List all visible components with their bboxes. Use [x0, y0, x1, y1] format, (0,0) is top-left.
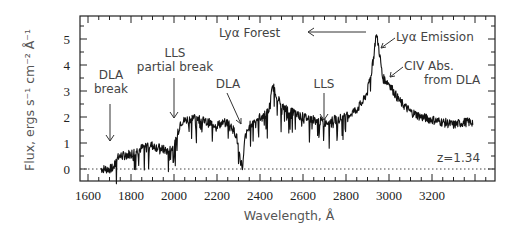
arrow-icon: [227, 93, 241, 124]
arrow-icon: [390, 67, 403, 77]
svg-text:0: 0: [64, 162, 71, 177]
svg-text:4: 4: [64, 58, 71, 73]
svg-text:2200: 2200: [204, 188, 230, 203]
svg-text:DLA: DLA: [216, 77, 241, 91]
y-axis-title: Flux, ergs s⁻¹ cm⁻² Å⁻¹: [22, 29, 37, 171]
annotation-lls-partial-break: LLS partial break: [137, 46, 213, 118]
svg-text:5: 5: [64, 32, 71, 47]
annotation-lls: LLS: [314, 77, 335, 120]
svg-text:1: 1: [64, 136, 71, 151]
svg-text:DLA: DLA: [99, 68, 124, 82]
svg-text:LLS: LLS: [165, 46, 186, 60]
svg-text:LLS: LLS: [314, 77, 335, 91]
svg-text:2800: 2800: [333, 188, 359, 203]
svg-text:2: 2: [64, 110, 71, 125]
spectrum-line: [101, 35, 473, 184]
annotation-lya-emission: Lyα Emission: [381, 30, 474, 48]
annotation-dla-break: DLA break: [94, 68, 128, 141]
arrow-icon: [381, 38, 395, 48]
svg-text:3000: 3000: [376, 188, 402, 203]
annotation-civ-absorption: CIV Abs. from DLA: [390, 59, 481, 87]
spectrum-chart: 1600180020002200240026002800300032000123…: [0, 0, 511, 234]
svg-text:Lyα Emission: Lyα Emission: [396, 30, 474, 44]
svg-text:partial break: partial break: [137, 60, 213, 74]
annotation-dla: DLA: [216, 77, 241, 124]
svg-text:from DLA: from DLA: [424, 73, 481, 87]
svg-text:2400: 2400: [247, 188, 273, 203]
svg-text:CIV Abs.: CIV Abs.: [404, 59, 454, 73]
svg-text:Lyα Forest: Lyα Forest: [219, 26, 281, 40]
x-axis-title: Wavelength, Å: [244, 208, 335, 223]
svg-text:2600: 2600: [290, 188, 316, 203]
svg-text:2000: 2000: [161, 188, 187, 203]
svg-text:1800: 1800: [118, 188, 144, 203]
svg-text:3: 3: [64, 84, 71, 99]
svg-text:3200: 3200: [419, 188, 445, 203]
annotation-lya-forest: Lyα Forest: [219, 26, 366, 40]
svg-text:break: break: [94, 82, 128, 96]
redshift-label: z=1.34: [437, 151, 480, 165]
svg-text:1600: 1600: [75, 188, 101, 203]
